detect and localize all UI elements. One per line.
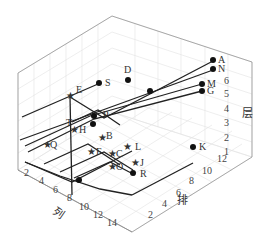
- point-H2: [147, 88, 153, 94]
- svg-text:6: 6: [53, 184, 58, 195]
- label-E: E: [76, 84, 82, 95]
- z-axis-title: 层: [242, 107, 253, 119]
- label-L: L: [135, 141, 141, 152]
- y-ticks: 2 4 6 8 10 12: [148, 153, 227, 220]
- marker-J: ★: [131, 157, 140, 168]
- point-D: [125, 77, 131, 83]
- svg-text:8: 8: [189, 175, 194, 186]
- label-J: J: [140, 157, 144, 168]
- point-M: [199, 81, 205, 87]
- label-H: H: [79, 124, 86, 135]
- label-T: T: [66, 117, 72, 128]
- svg-text:10: 10: [202, 165, 212, 176]
- label-C: C: [116, 148, 123, 159]
- point-bottom: [76, 177, 82, 183]
- grid: [18, 16, 252, 232]
- label-N: N: [218, 63, 225, 74]
- svg-text:2: 2: [224, 132, 229, 143]
- marker-E: ★: [66, 90, 75, 101]
- label-B: B: [106, 130, 113, 141]
- label-S: S: [105, 77, 111, 88]
- svg-text:10: 10: [79, 201, 89, 212]
- svg-text:4: 4: [39, 175, 44, 186]
- svg-text:3: 3: [224, 117, 229, 128]
- svg-text:2: 2: [24, 167, 29, 178]
- label-O: O: [116, 161, 123, 172]
- point-G: [199, 88, 205, 94]
- point-K: [190, 144, 196, 150]
- svg-text:4: 4: [162, 198, 167, 209]
- label-R: R: [140, 168, 147, 179]
- point-A: [210, 57, 216, 63]
- svg-text:8: 8: [67, 192, 72, 203]
- x-axis-title: 列: [51, 204, 67, 221]
- svg-text:2: 2: [148, 209, 153, 220]
- x-ticks: 2 4 6 8 10 12 14: [24, 167, 117, 228]
- marker-F: ★: [87, 146, 96, 157]
- svg-text:12: 12: [93, 209, 103, 220]
- label-F: F: [96, 146, 102, 157]
- y-axis-title: 排: [177, 193, 188, 206]
- point-P: [91, 113, 97, 119]
- marker-L: ★: [123, 141, 132, 152]
- point-H: [90, 121, 96, 127]
- label-Q: Q: [50, 139, 58, 150]
- point-S: [96, 80, 102, 86]
- svg-text:14: 14: [107, 217, 117, 228]
- label-G: G: [207, 85, 214, 96]
- svg-text:6: 6: [224, 75, 229, 86]
- label-D: D: [124, 64, 131, 75]
- point-N: [210, 66, 216, 72]
- label-K: K: [199, 141, 207, 152]
- label-P: P: [103, 109, 109, 120]
- chart-3d: A N M G D S ★ E P ★ T H ★ B ★ Q ★ F ★ C …: [0, 0, 263, 235]
- point-R: [130, 170, 136, 176]
- svg-text:4: 4: [224, 103, 229, 114]
- svg-text:1: 1: [224, 146, 229, 157]
- svg-text:5: 5: [224, 88, 229, 99]
